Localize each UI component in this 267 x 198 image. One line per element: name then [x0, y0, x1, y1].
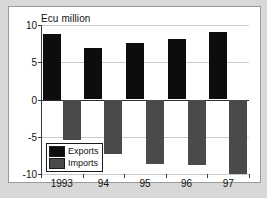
x-tick-label: 94 — [98, 178, 109, 189]
x-tick-mark — [207, 174, 208, 178]
gridline — [41, 25, 249, 26]
x-tick-mark — [249, 174, 250, 178]
legend-label-exports: Exports — [68, 147, 99, 156]
bar-exports-96 — [168, 39, 186, 100]
legend-entry: Exports — [49, 146, 99, 157]
x-tick-mark — [166, 174, 167, 178]
chart-figure: Ecu million 1050-5-10 199394959697 Expor… — [8, 6, 261, 183]
legend-entry: Imports — [49, 158, 99, 169]
gridline — [41, 174, 249, 175]
y-tick-label: -10 — [23, 169, 37, 180]
legend-swatch-exports — [49, 146, 65, 157]
x-tick-mark — [124, 174, 125, 178]
x-tick-mark — [41, 174, 42, 178]
bar-imports-94 — [104, 100, 122, 154]
bar-imports-1993 — [63, 100, 81, 141]
bar-exports-1993 — [43, 34, 61, 99]
y-tick-label: 5 — [31, 57, 37, 68]
y-tick-mark — [38, 62, 42, 63]
x-tick-label: 97 — [223, 178, 234, 189]
x-tick-label: 95 — [139, 178, 150, 189]
bar-exports-97 — [209, 32, 227, 99]
bar-imports-96 — [188, 100, 206, 166]
bar-imports-97 — [229, 100, 247, 175]
chart-legend: ExportsImports — [46, 143, 103, 172]
x-tick-label: 1993 — [51, 178, 73, 189]
y-tick-label: 10 — [26, 20, 37, 31]
y-tick-label: 0 — [31, 94, 37, 105]
y-tick-label: -5 — [28, 131, 37, 142]
x-tick-mark — [83, 174, 84, 178]
y-tick-mark — [38, 137, 42, 138]
chart-title: Ecu million — [41, 13, 90, 24]
plot-area: 1050-5-10 199394959697 ExportsImports — [41, 25, 249, 174]
bar-imports-95 — [146, 100, 164, 164]
legend-label-imports: Imports — [68, 159, 98, 168]
y-tick-mark — [38, 100, 42, 101]
y-tick-mark — [38, 25, 42, 26]
x-tick-label: 96 — [181, 178, 192, 189]
legend-swatch-imports — [49, 158, 65, 169]
bar-exports-94 — [84, 48, 102, 99]
bar-exports-95 — [126, 43, 144, 100]
